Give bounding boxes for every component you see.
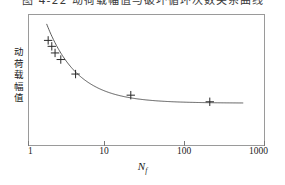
data-markers	[44, 36, 214, 106]
plot-canvas	[0, 0, 285, 185]
data-curve	[47, 24, 244, 103]
chart-page: 图 4-22 动荷载幅值与破坏循环次数关系曲线 动 荷 载 幅 值 1 10 1…	[0, 0, 285, 185]
